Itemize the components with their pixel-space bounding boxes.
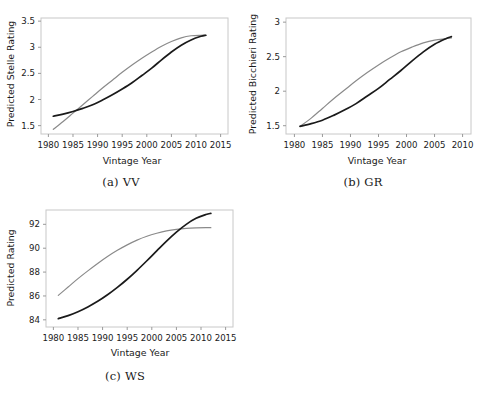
- xtick-label: 2005: [160, 140, 182, 150]
- ytick-label: 3: [30, 42, 35, 52]
- plot-b-yticks: 1.522.53: [266, 17, 286, 131]
- xtick-label: 2010: [452, 140, 474, 150]
- xtick-label: 2015: [215, 333, 237, 343]
- figure-container: 19801985199019952000200520102015 1.522.5…: [0, 0, 484, 400]
- ytick-label: 84: [29, 315, 40, 325]
- subplot-c-caption: (c) WS: [0, 369, 250, 383]
- ytick-label: 86: [29, 291, 40, 301]
- ytick-label: 3.5: [21, 16, 35, 26]
- plot-c-yticks: 8486889092: [29, 219, 46, 325]
- subplot-c: 19801985199019952000200520102015 8486889…: [0, 196, 250, 396]
- data-curve-gray-curve: [58, 228, 211, 296]
- plot-a-yticks: 1.522.533.5: [21, 16, 41, 131]
- subplot-a-caption: (a) VV: [0, 175, 242, 189]
- xtick-label: 2000: [136, 140, 158, 150]
- plot-a-yaxis-title: Predicted Stelle Rating: [5, 21, 16, 128]
- xtick-label: 2010: [185, 140, 207, 150]
- plot-c-curves: [58, 213, 211, 318]
- xtick-label: 1985: [62, 140, 84, 150]
- plot-b-xticks: 1980198519901995200020052010: [283, 134, 473, 150]
- xtick-label: 2010: [190, 333, 212, 343]
- ytick-label: 1.5: [21, 121, 35, 131]
- xtick-label: 1995: [111, 140, 133, 150]
- xtick-label: 1990: [87, 140, 109, 150]
- ytick-label: 3: [275, 17, 280, 27]
- xtick-label: 1990: [340, 140, 362, 150]
- ytick-label: 92: [29, 219, 40, 229]
- xtick-label: 1985: [67, 333, 89, 343]
- ytick-label: 2.5: [21, 68, 35, 78]
- xtick-label: 1980: [37, 140, 59, 150]
- data-curve-dark-curve: [53, 35, 206, 116]
- plot-c-svg: 19801985199019952000200520102015 8486889…: [0, 196, 250, 368]
- ytick-label: 2: [275, 86, 280, 96]
- data-curve-gray-curve: [53, 35, 206, 129]
- ytick-label: 1.5: [266, 121, 280, 131]
- subplot-a: 19801985199019952000200520102015 1.522.5…: [0, 4, 242, 196]
- xtick-label: 1985: [312, 140, 334, 150]
- plot-c-yaxis-title: Predicted Rating: [5, 229, 16, 306]
- xtick-label: 1980: [283, 140, 305, 150]
- plot-a-xticks: 19801985199019952000200520102015: [37, 134, 231, 150]
- plot-b-curves: [300, 37, 451, 127]
- ytick-label: 88: [29, 267, 40, 277]
- xtick-label: 2015: [210, 140, 232, 150]
- plot-b-xaxis-title: Vintage Year: [348, 155, 407, 166]
- data-curve-dark-curve: [58, 213, 211, 318]
- xtick-label: 1980: [42, 333, 64, 343]
- plot-b-yaxis-title: Predicted Bicchieri Rating: [247, 14, 258, 134]
- xtick-label: 2005: [165, 333, 187, 343]
- data-curve-gray-curve: [300, 38, 451, 126]
- subplot-b-caption: (b) GR: [242, 175, 484, 189]
- ytick-label: 2.5: [266, 52, 280, 62]
- xtick-label: 1990: [92, 333, 114, 343]
- plot-b-svg: 1980198519901995200020052010 1.522.53 Vi…: [242, 4, 484, 174]
- plot-c-xticks: 19801985199019952000200520102015: [42, 327, 236, 343]
- ytick-label: 2: [30, 95, 35, 105]
- plot-a-xaxis-title: Vintage Year: [103, 155, 162, 166]
- xtick-label: 2000: [141, 333, 163, 343]
- xtick-label: 1995: [368, 140, 390, 150]
- data-curve-dark-curve: [300, 37, 451, 127]
- plot-a-curves: [53, 35, 206, 129]
- plot-c-xaxis-title: Vintage Year: [111, 347, 170, 358]
- xtick-label: 2000: [396, 140, 418, 150]
- plot-a-svg: 19801985199019952000200520102015 1.522.5…: [0, 4, 242, 174]
- xtick-label: 2005: [424, 140, 446, 150]
- ytick-label: 90: [29, 243, 40, 253]
- subplot-b: 1980198519901995200020052010 1.522.53 Vi…: [242, 4, 484, 196]
- xtick-label: 1995: [116, 333, 138, 343]
